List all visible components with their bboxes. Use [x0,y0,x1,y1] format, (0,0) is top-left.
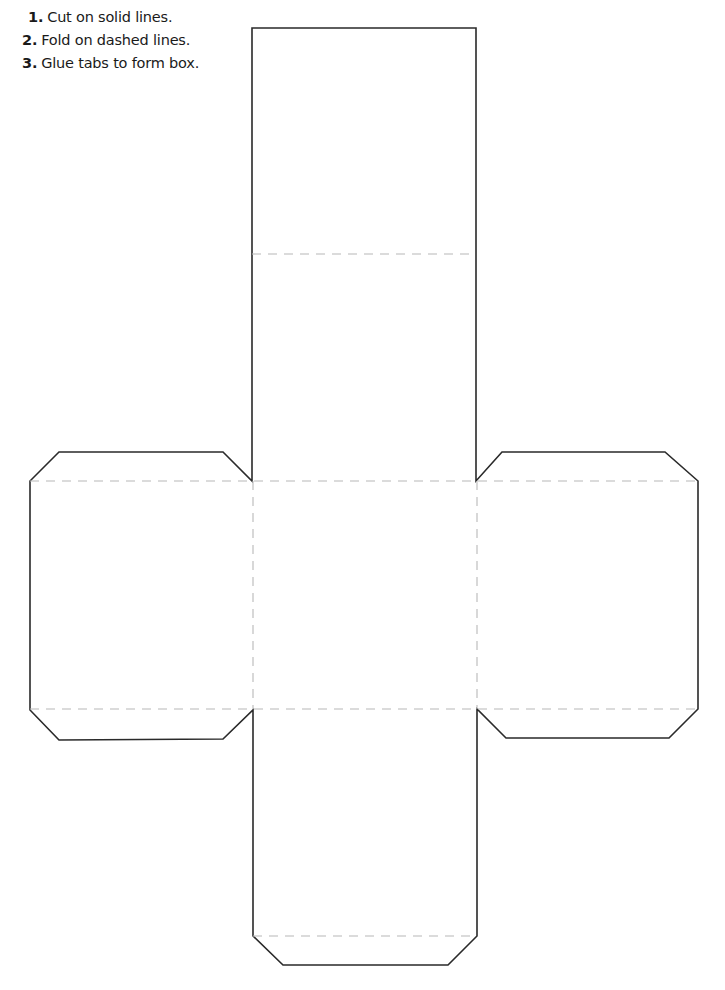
box-net-template [0,0,725,990]
cut-outline [30,28,698,965]
